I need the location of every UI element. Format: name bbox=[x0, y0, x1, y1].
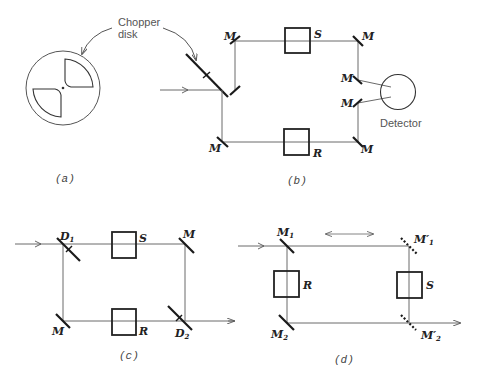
callout-arrow-disk bbox=[82, 28, 112, 54]
label-m1: M1 bbox=[276, 226, 294, 240]
sample-cell bbox=[112, 232, 136, 258]
callout-arrow-mirror bbox=[163, 28, 196, 60]
label-d2: D2 bbox=[174, 327, 190, 341]
beam-to-detector-2 bbox=[358, 97, 391, 103]
beam-to-detector-1 bbox=[358, 80, 391, 87]
label-r: R bbox=[302, 279, 312, 292]
label-m: M bbox=[208, 142, 222, 155]
label-m: M bbox=[361, 30, 375, 43]
lower-path bbox=[63, 244, 235, 321]
label-r: R bbox=[138, 325, 148, 338]
panel-d: M1 R M2 M′1 S M′2 (d) bbox=[238, 226, 460, 366]
reference-path bbox=[222, 90, 358, 142]
figure-svg: Chopper disk (a) M M M M bbox=[0, 0, 478, 379]
caption-c: (c) bbox=[119, 350, 139, 362]
caption-b: (b) bbox=[287, 175, 307, 187]
caption-a: (a) bbox=[55, 173, 75, 185]
label-m1-prime: M′1 bbox=[413, 233, 434, 247]
label-s: S bbox=[426, 279, 434, 292]
chopper-disk bbox=[26, 51, 100, 125]
reference-cell bbox=[112, 309, 136, 335]
label-m: M bbox=[182, 228, 196, 241]
label-m: M bbox=[340, 72, 354, 85]
label-r: R bbox=[312, 147, 322, 160]
label-m: M bbox=[51, 325, 65, 338]
label-m: M bbox=[223, 30, 237, 43]
label-m: M bbox=[340, 97, 354, 110]
detector-label: Detector bbox=[380, 117, 422, 129]
label-s: S bbox=[139, 232, 147, 245]
chopper-label-line2: disk bbox=[118, 28, 138, 40]
optics-figure: Chopper disk (a) M M M M bbox=[0, 0, 478, 379]
label-m2-prime: M′2 bbox=[420, 329, 441, 343]
sample-path bbox=[235, 41, 358, 90]
detector bbox=[381, 75, 416, 110]
panel-b: M M M M M M S R Detector (b) bbox=[160, 28, 422, 187]
label-d1: D1 bbox=[59, 230, 74, 244]
label-m2: M2 bbox=[270, 328, 288, 342]
caption-d: (d) bbox=[334, 354, 354, 366]
chopper-label-line1: Chopper bbox=[118, 16, 161, 28]
panel-a: Chopper disk (a) bbox=[26, 16, 196, 185]
panel-c: D1 S M M R D2 (c) bbox=[15, 228, 235, 362]
label-s: S bbox=[314, 28, 322, 41]
label-m: M bbox=[360, 143, 374, 156]
